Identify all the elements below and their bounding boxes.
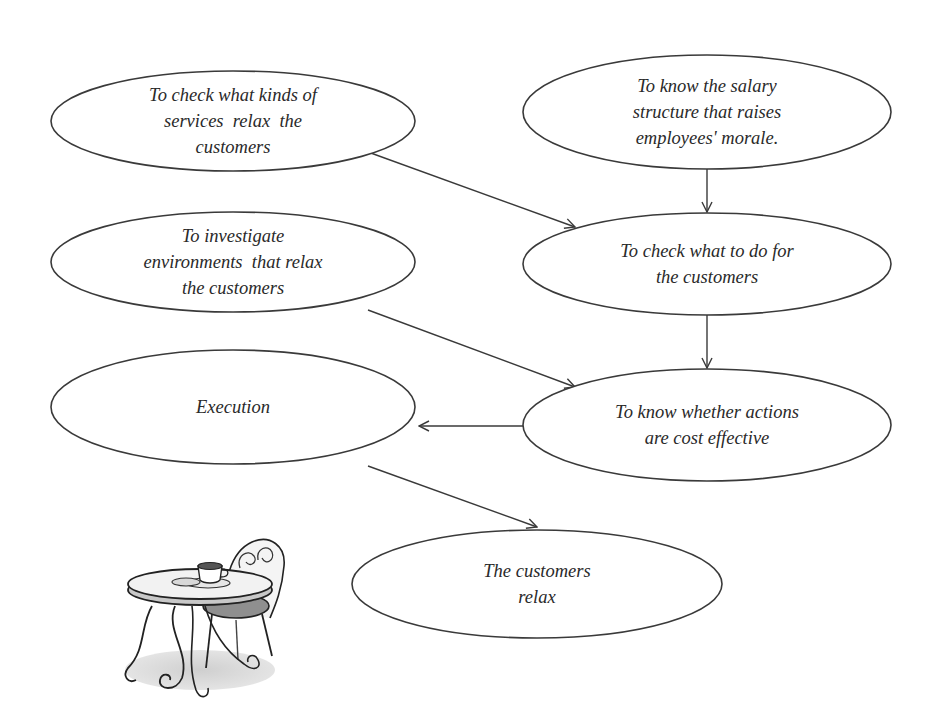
- nodes: [51, 55, 891, 638]
- edge-investigate-environments-to-cost-effective: [368, 310, 575, 387]
- node-cost-effective[interactable]: [523, 369, 891, 481]
- node-check-what-to-do[interactable]: [523, 213, 891, 315]
- cafe-table-illustration: [125, 539, 284, 696]
- edge-check-services-to-check-what-to-do: [368, 152, 575, 227]
- node-customers-relax[interactable]: [352, 530, 722, 638]
- node-salary-structure[interactable]: [523, 55, 891, 169]
- node-investigate-environments[interactable]: [51, 212, 415, 312]
- node-execution[interactable]: [51, 350, 415, 464]
- node-check-services[interactable]: [51, 71, 415, 171]
- flowchart-canvas: [0, 0, 938, 722]
- edge-execution-to-customers-relax: [368, 466, 537, 527]
